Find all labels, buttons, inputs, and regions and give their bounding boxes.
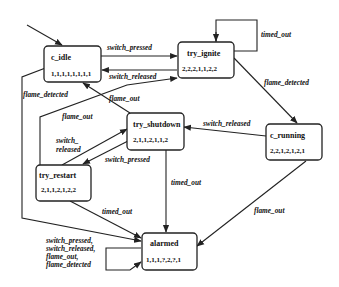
state-values: 1,1,1,?,2,?,1 (146, 256, 182, 264)
state-try-shutdown: try_shutdown 2,1,1,2,1,1,2 (127, 113, 184, 150)
state-alarmed: alarmed 1,1,1,?,2,?,1 (142, 233, 197, 270)
label-shutdown-to-restart: switch_pressed (104, 155, 150, 164)
state-c-running: c_running 2,2,1,2,1,2,1 (266, 124, 322, 160)
label-ignite-to-running: flame_detected (264, 78, 309, 87)
label-alarmed-self-4: flame_detected (46, 260, 91, 269)
label-ignite-self: timed_out (261, 30, 292, 39)
label-shutdown-to-alarmed: timed_out (171, 178, 202, 187)
state-name: c_idle (51, 53, 71, 62)
label-idle-to-ignite: switch_pressed (106, 43, 152, 52)
edge-running-to-alarmed (197, 161, 306, 246)
state-values: 2,1,1,2,1,2,2 (41, 186, 77, 194)
label-running-to-alarmed: flame_out (254, 206, 285, 215)
state-values: 1,1,1,1,1,1,1,1 (51, 70, 92, 78)
state-name: try_restart (39, 171, 77, 180)
state-name: try_shutdown (133, 120, 181, 129)
label-restart-to-shutdown-2: released (56, 145, 81, 154)
label-running-to-shutdown: switch_released (202, 119, 251, 128)
state-name: c_running (270, 131, 305, 140)
edge-running-to-shutdown (184, 127, 266, 136)
initial-transition-arrow (27, 25, 62, 45)
state-values: 2,2,1,2,1,2,1 (270, 147, 306, 155)
label-shutdown-to-idle: flame_out (109, 94, 140, 103)
label-restart-to-shutdown-1: switch_ (55, 136, 79, 145)
state-c-idle: c_idle 1,1,1,1,1,1,1,1 (44, 46, 101, 82)
state-name: alarmed (150, 239, 179, 248)
label-restart-to-ignite: flame_out (62, 112, 93, 121)
state-diagram: switch_pressed switch_released timed_out… (0, 0, 339, 287)
edge-ignite-to-running (234, 58, 297, 123)
state-values: 2,2,2,1,1,2,2 (182, 65, 218, 73)
state-try-restart: try_restart 2,1,1,2,1,2,2 (36, 165, 91, 201)
state-name: try_ignite (187, 49, 221, 58)
label-restart-to-alarmed: timed_out (102, 207, 133, 216)
label-idle-to-alarmed: flame_detected (23, 90, 68, 99)
state-try-ignite: try_ignite 2,2,2,1,1,2,2 (178, 42, 234, 78)
edge-alarmed-self (106, 248, 141, 270)
label-ignite-to-idle: switch_released (108, 72, 157, 81)
state-values: 2,1,1,2,1,1,2 (133, 136, 169, 144)
